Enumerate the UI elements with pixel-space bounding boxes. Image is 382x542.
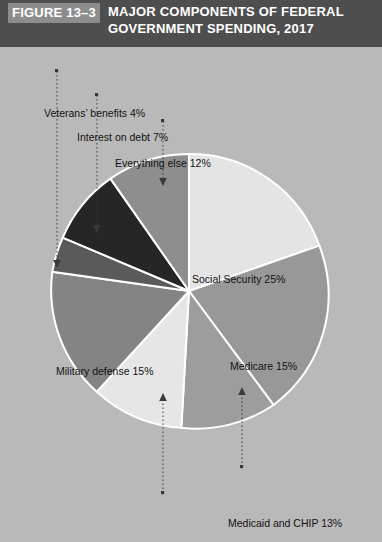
chart-plot-area: Veterans’ benefits 4% Interest on debt 7… (0, 47, 382, 532)
slice-label-medicare: Medicare 15% (230, 360, 297, 373)
figure-number-text: FIGURE 13–3 (8, 3, 100, 23)
figure-header: FIGURE 13–3 MAJOR COMPONENTS OF FEDERAL … (0, 0, 382, 47)
figure-title-line2: GOVERNMENT SPENDING, 2017 (108, 20, 376, 37)
pie-slices (51, 154, 328, 429)
callout-label-veterans-benefits: Veterans’ benefits 4% (44, 107, 145, 120)
callout-label-medicaid-chip: Medicaid and CHIP 13% (228, 517, 342, 530)
callout-label-interest-on-debt: Interest on debt 7% (77, 131, 168, 144)
slice-label-social-security: Social Security 25% (192, 273, 285, 286)
figure-title: MAJOR COMPONENTS OF FEDERAL GOVERNMENT S… (108, 3, 376, 37)
figure-number-badge: FIGURE 13–3 (8, 3, 100, 23)
anchor-dot-veterans (55, 69, 58, 72)
anchor-dot-medicaid (240, 465, 243, 468)
anchor-dot-misc (161, 491, 164, 494)
figure-container: FIGURE 13–3 MAJOR COMPONENTS OF FEDERAL … (0, 0, 382, 542)
anchor-dot-interest (95, 93, 98, 96)
figure-title-line1: MAJOR COMPONENTS OF FEDERAL (108, 4, 344, 19)
slice-label-military-defense: Military defense 15% (56, 365, 153, 378)
anchor-dot-everything (161, 119, 164, 122)
callout-label-everything-else: Everything else 12% (115, 157, 211, 170)
